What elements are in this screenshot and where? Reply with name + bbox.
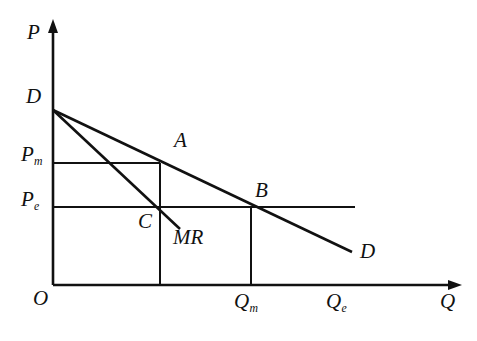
competitive-price-subscript: e <box>34 200 39 213</box>
y-axis-label: P <box>27 22 40 43</box>
monopoly-quantity-label: Qm <box>234 291 258 312</box>
monopoly-price-label: Pm <box>21 144 42 165</box>
monopoly-diagram: P Q O D D MR A B C Pm Pe Qm Qe <box>0 0 477 341</box>
point-label-b: B <box>255 180 268 201</box>
x-axis-label: Q <box>440 291 455 312</box>
point-label-c: C <box>138 211 152 232</box>
demand-top-label: D <box>26 86 41 107</box>
origin-label: O <box>33 288 48 309</box>
monopoly-price-subscript: m <box>34 155 43 168</box>
y-axis-arrow-icon <box>48 19 58 33</box>
point-label-a: A <box>174 130 187 151</box>
competitive-quantity-symbol: Q <box>326 289 341 313</box>
monopoly-price-symbol: P <box>21 142 34 166</box>
competitive-quantity-label: Qe <box>326 291 346 312</box>
marginal-revenue-label: MR <box>173 227 203 248</box>
monopoly-quantity-symbol: Q <box>234 289 249 313</box>
demand-end-label: D <box>360 241 375 262</box>
competitive-quantity-subscript: e <box>341 302 346 315</box>
competitive-price-symbol: P <box>21 187 34 211</box>
monopoly-quantity-subscript: m <box>249 302 258 315</box>
competitive-price-label: Pe <box>21 189 39 210</box>
